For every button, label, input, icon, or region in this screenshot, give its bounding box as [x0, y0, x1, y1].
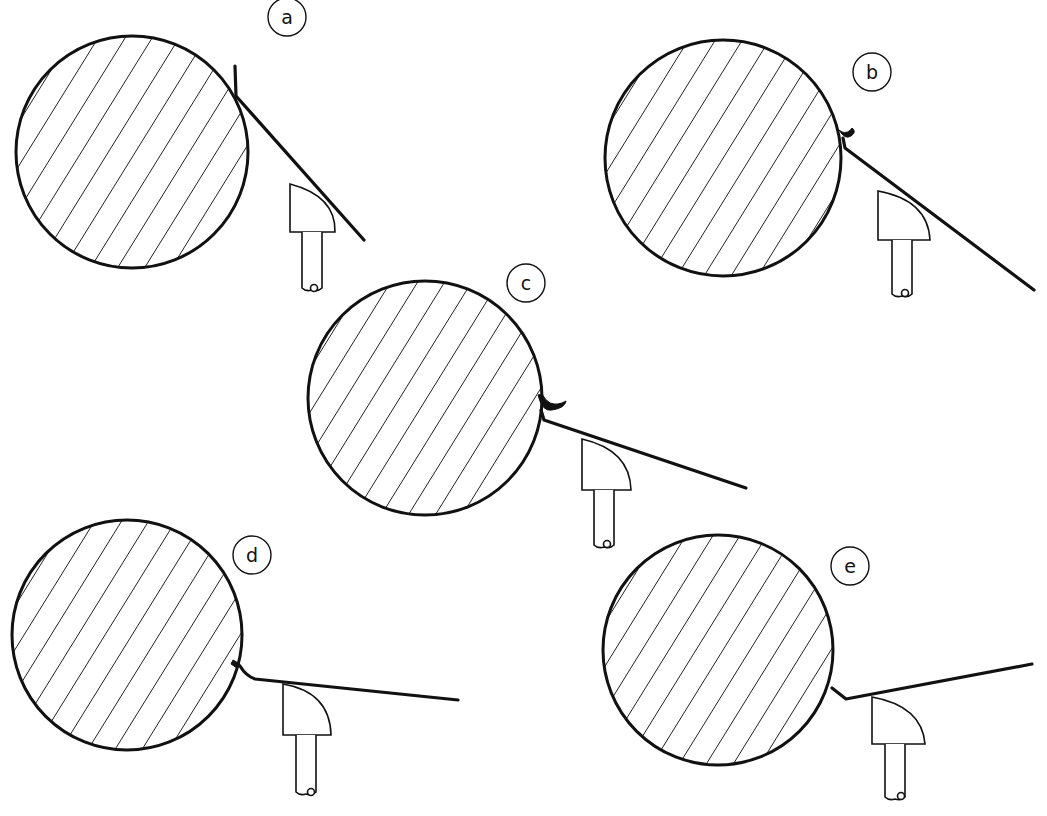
panel-label-e: e — [831, 547, 869, 585]
tool-shank — [885, 744, 905, 800]
hatch-line — [488, 489, 688, 811]
tool-head — [872, 697, 925, 744]
hatch-line — [542, 489, 742, 811]
tool-head — [878, 191, 930, 240]
tool-shank — [892, 240, 912, 297]
tool-shank — [302, 232, 322, 291]
shank-end-mark — [311, 285, 318, 292]
label-text: a — [281, 6, 293, 28]
support-tool — [283, 684, 331, 796]
hatch-line — [0, 0, 47, 314]
tool-shank — [296, 735, 316, 795]
blade-workpiece-diagram: a b c — [0, 0, 1047, 816]
hatch-line — [59, 474, 259, 796]
hatch-line — [170, 0, 371, 314]
panel-e: e — [434, 489, 1032, 811]
label-text: c — [521, 272, 531, 294]
hatch-line — [32, 474, 232, 796]
tool-head — [290, 184, 335, 232]
hatch-line — [677, 489, 877, 811]
shank-end-mark — [898, 793, 905, 800]
blade-line — [240, 666, 458, 700]
workpiece-circle — [12, 520, 242, 750]
hatch-line — [190, 234, 393, 562]
panel-c: c — [136, 234, 746, 562]
panel-label-a: a — [268, 0, 306, 36]
workpiece-circle — [308, 281, 542, 515]
shank-end-mark — [902, 290, 909, 297]
hatch-line — [244, 234, 447, 562]
blade-line — [832, 664, 1032, 699]
hatch-line — [194, 474, 394, 796]
hatch-line — [325, 234, 528, 562]
label-text: e — [844, 555, 856, 577]
workpiece-circle — [603, 535, 833, 765]
workpiece-hatching — [0, 0, 398, 314]
workpiece-hatching — [0, 474, 394, 796]
shank-end-mark — [604, 541, 611, 548]
hatch-line — [623, 489, 823, 811]
hatch-line — [197, 0, 398, 314]
tool-head — [283, 684, 331, 735]
hatch-line — [758, 489, 958, 811]
hatch-line — [0, 0, 74, 314]
support-tool — [872, 697, 925, 800]
hatch-line — [460, 234, 663, 562]
hatch-line — [167, 474, 367, 796]
support-tool — [582, 439, 631, 548]
blade-line — [843, 138, 1034, 290]
hatch-line — [0, 474, 70, 796]
shank-end-mark — [308, 789, 315, 796]
chip-curl — [839, 128, 854, 137]
blade-line — [541, 410, 746, 488]
panel-d: d — [0, 474, 458, 796]
tool-shank — [594, 490, 614, 548]
label-text: d — [246, 544, 258, 566]
hatch-line — [783, 0, 988, 323]
hatch-line — [461, 489, 661, 811]
hatch-line — [756, 0, 961, 323]
hatch-line — [0, 0, 128, 314]
panel-label-d: d — [233, 536, 271, 574]
panel-a: a — [0, 0, 398, 314]
hatch-line — [0, 474, 97, 796]
label-text: b — [866, 61, 878, 83]
hatch-line — [163, 234, 366, 562]
panel-label-b: b — [853, 53, 891, 91]
hatch-line — [650, 489, 850, 811]
hatch-line — [0, 474, 151, 796]
hatch-line — [86, 474, 286, 796]
hatch-line — [0, 474, 43, 796]
hatch-line — [459, 0, 664, 323]
panel-label-c: c — [507, 264, 545, 302]
hatch-line — [515, 489, 715, 811]
